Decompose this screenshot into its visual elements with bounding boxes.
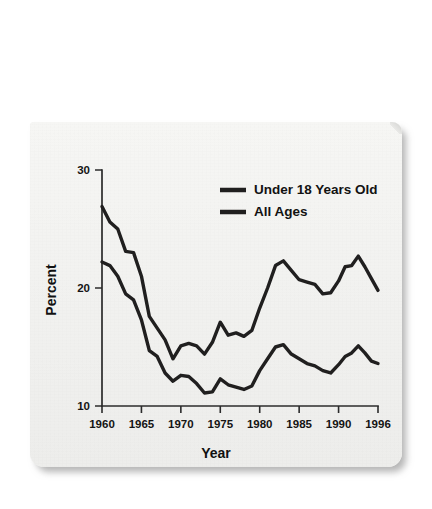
y-tick-label: 20 [77, 282, 90, 294]
y-axis-title: Percent [43, 264, 59, 316]
x-tick-label: 1975 [207, 418, 233, 430]
x-tick-label: 1970 [168, 418, 194, 430]
line-chart: 102030 19601965197019751980198519901996 … [30, 122, 402, 467]
x-tick-label: 1965 [129, 418, 155, 430]
legend-label-0: Under 18 Years Old [254, 182, 378, 197]
x-tick-label: 1985 [286, 418, 312, 430]
chart-legend: Under 18 Years OldAll Ages [220, 182, 378, 219]
x-axis-ticks [102, 406, 378, 413]
figure-canvas: 102030 19601965197019751980198519901996 … [0, 0, 432, 509]
data-series-group [102, 207, 378, 393]
series-line-under-18-years-old [102, 207, 378, 359]
legend-label-1: All Ages [254, 204, 308, 219]
chart-card-surface: 102030 19601965197019751980198519901996 … [30, 122, 402, 467]
y-tick-label: 30 [77, 164, 90, 176]
chart-card: 102030 19601965197019751980198519901996 … [30, 122, 402, 467]
x-tick-label: 1960 [89, 418, 115, 430]
x-tick-label: 1996 [365, 418, 391, 430]
y-tick-label: 10 [77, 400, 90, 412]
x-axis-tick-labels: 19601965197019751980198519901996 [89, 418, 391, 430]
x-tick-label: 1980 [247, 418, 273, 430]
plot-area: 102030 19601965197019751980198519901996 … [30, 122, 402, 467]
x-axis-title: Year [201, 445, 231, 461]
y-axis-tick-labels: 102030 [77, 164, 90, 412]
x-tick-label: 1990 [326, 418, 352, 430]
